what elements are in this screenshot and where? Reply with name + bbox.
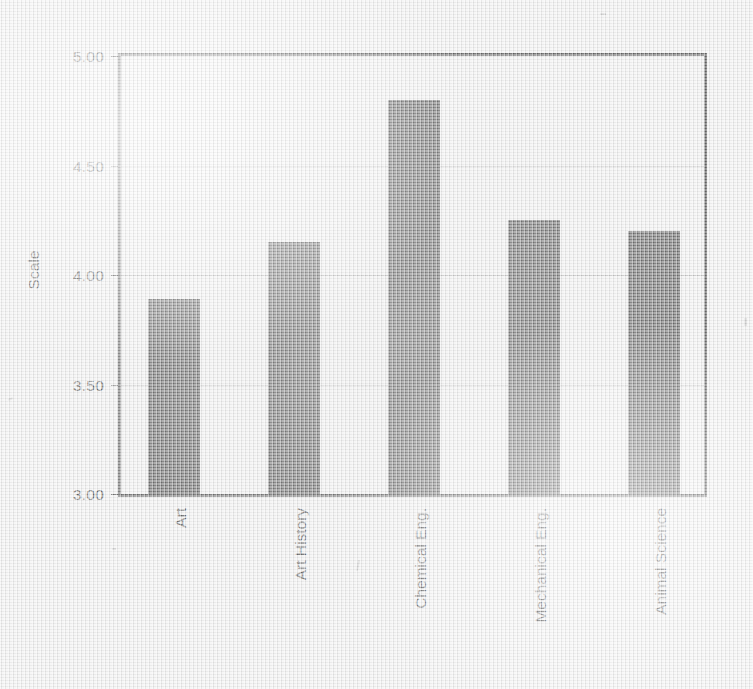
scan-speckle [744, 318, 747, 326]
bar-chart: 5.00 4.50 4.00 3.50 3.00 Scale Art Art H… [0, 0, 753, 689]
x-tick-label-mechanical-eng: Mechanical Eng. [532, 508, 550, 623]
x-tick-label-art-history: Art History [292, 508, 310, 580]
x-axis-tick-labels: Art Art History Chemical Eng. Mechanical… [0, 0, 753, 689]
scan-speckle [112, 548, 116, 550]
x-tick-label-animal-science: Animal Science [652, 508, 670, 615]
x-tick-label-art: Art [172, 508, 190, 528]
x-tick-label-chemical-eng: Chemical Eng. [412, 508, 430, 609]
scan-speckle [600, 13, 606, 15]
